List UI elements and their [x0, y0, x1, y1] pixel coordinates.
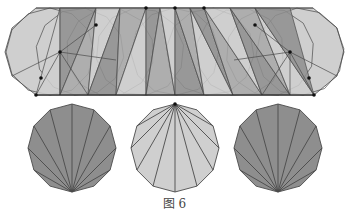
vertex-dot	[94, 23, 98, 27]
vertex-dot	[202, 6, 206, 10]
figure-caption: 图 6	[0, 194, 349, 211]
vertex-dot	[144, 6, 148, 10]
left-dodecagon	[28, 104, 116, 192]
middle-dodecagon	[131, 102, 219, 192]
vertex-dot	[253, 23, 257, 27]
figure-canvas	[0, 0, 349, 215]
apex-dot	[173, 102, 177, 106]
vertex-dot	[39, 76, 43, 80]
vertex-dot	[307, 76, 311, 80]
vertex-dot	[58, 50, 62, 54]
vertex-dot	[312, 93, 316, 97]
vertex-dot	[288, 50, 292, 54]
right-dodecagon	[234, 104, 322, 192]
unfolded-polygon-strip	[5, 6, 344, 97]
dodecagon-row	[28, 102, 322, 192]
vertex-dot	[34, 93, 38, 97]
vertex-dot	[173, 6, 177, 10]
